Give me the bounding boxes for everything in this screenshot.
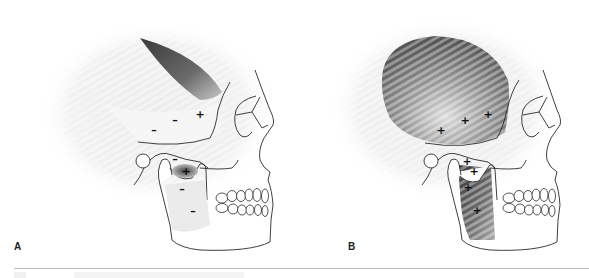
panel-label-b: B (348, 241, 355, 252)
panel-label-a: A (14, 241, 21, 252)
sign-pterygoid-upper-a: – (172, 155, 178, 165)
skull-diagram-a (0, 0, 295, 260)
sign-masseter-deep-b: + (463, 183, 472, 193)
sign-temporalis-posterior-b: + (436, 126, 445, 136)
panel-b: + + + + + + + B (295, 0, 589, 260)
sign-temporalis-anterior-a: + (195, 110, 204, 120)
sign-pterygoid-lower-b: + (469, 167, 478, 177)
sign-masseter-superficial-b: + (472, 206, 481, 216)
caption-divider (14, 268, 589, 269)
sign-temporalis-middle-a: – (172, 116, 178, 126)
sign-masseter-deep-a: – (179, 185, 185, 195)
teeth (216, 189, 269, 217)
sign-temporalis-posterior-a: – (151, 126, 157, 136)
panel-a: + – – – + – – A (0, 0, 295, 260)
sign-temporalis-middle-b: + (460, 116, 469, 126)
sign-temporalis-anterior-b: + (483, 110, 492, 120)
sign-masseter-superficial-a: – (190, 207, 196, 217)
teeth (503, 189, 556, 217)
caption-cropped (14, 272, 244, 278)
sign-pterygoid-lower-a: + (181, 167, 190, 177)
